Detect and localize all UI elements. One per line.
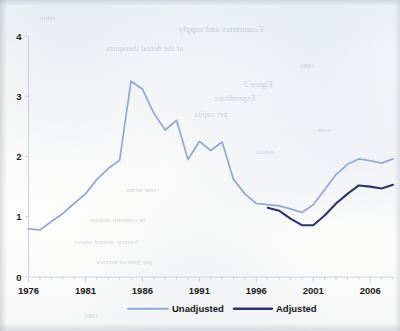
x-tick-label: 1981 <box>75 285 97 296</box>
series-line-adjusted <box>268 185 393 225</box>
x-tick-label: 1976 <box>18 285 39 296</box>
x-axis-tick-labels: 1976198119861991199620012006 <box>18 285 381 296</box>
x-axis-ticks <box>29 277 394 282</box>
y-tick-label: 1 <box>16 211 22 222</box>
y-tick-label: 2 <box>16 151 21 162</box>
legend-label-adjusted: Adjusted <box>276 303 317 314</box>
chart-axes <box>29 36 394 277</box>
series-line-unadjusted <box>29 81 394 230</box>
chart-series-lines <box>29 81 394 230</box>
x-tick-label: 1986 <box>132 285 153 296</box>
y-tick-label: 4 <box>16 31 22 42</box>
chart-legend: UnadjustedAdjusted <box>128 303 317 314</box>
y-axis-tick-labels: 01234 <box>16 31 22 283</box>
x-tick-label: 2001 <box>303 285 325 296</box>
line-chart: 01234 1976198119861991199620012006 Unadj… <box>0 0 400 331</box>
x-tick-label: 2006 <box>360 285 381 296</box>
x-tick-label: 1991 <box>189 285 211 296</box>
legend-label-unadjusted: Unadjusted <box>172 303 224 314</box>
y-tick-label: 0 <box>16 272 21 283</box>
x-tick-label: 1996 <box>246 285 267 296</box>
y-tick-label: 3 <box>16 91 21 102</box>
